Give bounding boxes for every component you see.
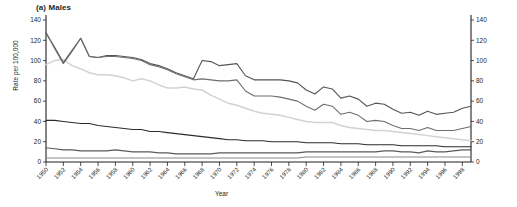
x-tick-label: 1994	[417, 166, 431, 180]
y-tick-label-right: 40	[476, 118, 484, 125]
x-tick-label: 1982	[313, 166, 327, 180]
x-tick-label: 1954	[70, 166, 84, 180]
y-tick-label-left: 0	[37, 158, 41, 165]
y-tick-label-right: 140	[476, 16, 487, 23]
x-tick-label: 1986	[348, 166, 362, 180]
series-line-series_6	[46, 157, 471, 158]
x-tick-label: 1974	[244, 166, 258, 180]
data-series-group	[46, 32, 471, 158]
x-tick-label: 1988	[365, 166, 379, 180]
x-tick-label: 1980	[296, 166, 310, 180]
x-tick-label: 1956	[88, 166, 102, 180]
x-tick-label: 1968	[192, 166, 206, 180]
x-tick-label: 1964	[157, 166, 171, 180]
x-tick-label: 1970	[209, 166, 223, 180]
x-tick-label: 1958	[105, 166, 119, 180]
x-tick-label: 1992	[400, 166, 414, 180]
x-tick-label: 1952	[53, 166, 67, 180]
y-tick-label-left: 140	[30, 16, 41, 23]
x-tick-label: 1960	[122, 166, 136, 180]
y-tick-label-right: 100	[476, 57, 487, 64]
x-axis: 1950195219541956195819601962196419661968…	[36, 162, 471, 180]
y-tick-label-left: 100	[30, 57, 41, 64]
y-tick-label-right: 80	[476, 77, 484, 84]
series-line-series_3	[46, 32, 471, 130]
y-tick-label-right: 120	[476, 37, 487, 44]
x-tick-label: 1962	[140, 166, 154, 180]
y-tick-label-left: 40	[34, 118, 42, 125]
x-tick-label: 1990	[382, 166, 396, 180]
x-tick-label: 1984	[330, 166, 344, 180]
y-axis-right: 020406080100120140	[471, 15, 487, 165]
y-tick-label-right: 0	[476, 158, 480, 165]
y-axis-left: 020406080100120140	[30, 15, 46, 165]
x-tick-label: 1966	[174, 166, 188, 180]
series-line-series_1	[46, 33, 471, 115]
chart-figure: (a) Males Rate per 100,000 Year 02040608…	[0, 0, 517, 207]
y-tick-label-left: 80	[34, 77, 42, 84]
x-tick-label: 1950	[36, 166, 50, 180]
x-tick-label: 1978	[278, 166, 292, 180]
y-tick-label-left: 60	[34, 97, 42, 104]
series-line-series_5	[46, 148, 471, 154]
x-tick-label: 1972	[226, 166, 240, 180]
y-tick-label-right: 20	[476, 138, 484, 145]
x-tick-label: 1998	[452, 166, 466, 180]
x-tick-label: 1996	[434, 166, 448, 180]
y-tick-label-left: 120	[30, 37, 41, 44]
y-tick-label-right: 60	[476, 97, 484, 104]
line-chart-plot: 020406080100120140 020406080100120140 19…	[0, 0, 517, 207]
y-tick-label-left: 20	[34, 138, 42, 145]
x-tick-label: 1976	[261, 166, 275, 180]
